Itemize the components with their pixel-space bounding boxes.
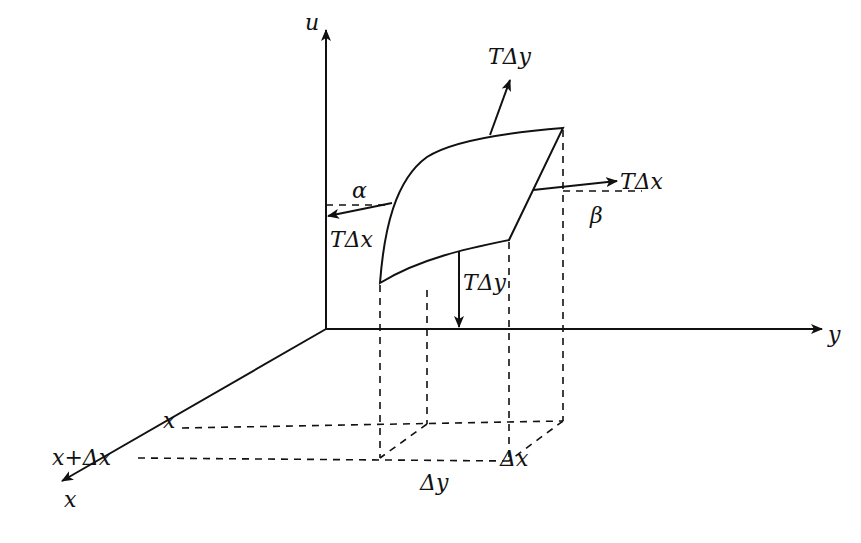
- alpha-label: α: [352, 178, 367, 203]
- membrane-surface: [380, 128, 563, 283]
- tension-right-label: TΔx: [620, 169, 664, 194]
- tension-bottom-label: TΔy: [463, 270, 507, 295]
- floor-dash-left-diag: [380, 424, 427, 458]
- x-axis-label: x: [64, 487, 77, 512]
- tension-top-arrow: [490, 80, 510, 135]
- floor-dash-back: [182, 421, 563, 428]
- u-axis-label: u: [305, 10, 319, 35]
- tension-right-arrow: [533, 181, 617, 190]
- x-mark-label: x: [163, 408, 176, 433]
- beta-label: β: [589, 203, 603, 228]
- x-plus-dx-label: x+Δx: [52, 445, 112, 470]
- tension-left-label: TΔx: [330, 227, 374, 252]
- delta-x-label: Δx: [499, 446, 529, 471]
- y-axis-label: y: [827, 322, 841, 347]
- delta-y-label: Δy: [419, 470, 449, 495]
- floor-dash-front: [138, 458, 509, 461]
- membrane-diagram: u y x TΔy TΔx TΔx TΔy α β x x+Δx Δy Δx: [0, 0, 861, 543]
- tension-top-label: TΔy: [488, 44, 532, 69]
